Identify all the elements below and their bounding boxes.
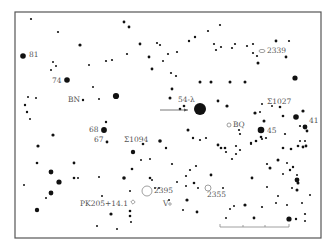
star <box>292 166 294 168</box>
star <box>222 187 224 189</box>
star <box>259 111 261 113</box>
star <box>20 53 26 59</box>
star <box>199 81 202 84</box>
star <box>213 43 215 45</box>
star <box>196 211 199 214</box>
star <box>303 125 308 130</box>
star <box>231 158 233 160</box>
star <box>96 225 98 227</box>
star <box>197 187 199 189</box>
pk205-nebula-icon <box>131 200 135 204</box>
star <box>165 147 167 149</box>
star <box>193 182 196 185</box>
star <box>275 202 277 204</box>
star <box>171 163 173 165</box>
star <box>220 147 223 150</box>
star <box>156 42 158 44</box>
star <box>159 44 161 46</box>
star <box>296 189 299 192</box>
star <box>229 81 232 84</box>
star <box>295 218 297 220</box>
label-68: 68 <box>89 125 99 134</box>
star <box>131 168 134 171</box>
star <box>36 144 39 147</box>
star <box>105 121 107 123</box>
label-74: 74 <box>52 76 62 85</box>
star <box>35 208 39 212</box>
star <box>235 145 237 147</box>
star <box>111 59 113 61</box>
star <box>123 21 126 24</box>
star <box>176 181 178 183</box>
star <box>266 186 268 188</box>
star <box>253 111 256 114</box>
star <box>238 129 240 131</box>
star <box>176 51 178 53</box>
star <box>101 127 107 133</box>
star <box>49 191 54 196</box>
label-pk205: PK205+14.1 <box>80 199 128 208</box>
star <box>234 43 236 45</box>
star <box>261 206 263 208</box>
label-2395: 2395 <box>154 186 173 195</box>
star <box>296 174 298 176</box>
star <box>109 212 112 215</box>
star <box>299 125 301 127</box>
star <box>187 129 190 132</box>
label-2355: 2355 <box>207 190 226 199</box>
star <box>88 64 90 66</box>
star <box>231 47 233 49</box>
star <box>207 30 209 32</box>
2339-galaxy-icon <box>259 49 265 52</box>
star <box>64 77 70 83</box>
star <box>167 53 169 55</box>
star <box>225 151 227 153</box>
star <box>282 115 285 118</box>
label-v: V <box>162 199 169 208</box>
star <box>244 81 247 84</box>
star <box>175 75 177 77</box>
star <box>82 99 84 101</box>
star <box>305 145 308 148</box>
star <box>77 177 79 179</box>
star <box>304 140 306 142</box>
star <box>129 210 132 213</box>
star <box>78 43 81 46</box>
star <box>299 140 301 142</box>
label-54-lambda: 54-λ <box>178 95 195 104</box>
star <box>306 130 309 133</box>
star <box>258 127 265 134</box>
star <box>256 55 258 57</box>
star <box>126 53 128 55</box>
label-67: 67 <box>94 135 104 144</box>
star <box>51 133 54 136</box>
star <box>309 194 311 196</box>
star <box>253 217 256 220</box>
star <box>295 178 300 183</box>
star <box>282 147 285 150</box>
star <box>304 220 306 222</box>
star <box>73 162 76 165</box>
star <box>188 40 190 42</box>
star <box>151 179 153 181</box>
star <box>149 158 151 160</box>
star <box>286 204 288 206</box>
star <box>169 97 172 100</box>
star <box>257 62 260 65</box>
label-45: 45 <box>267 126 277 135</box>
label-81: 81 <box>29 50 39 59</box>
star <box>49 170 54 175</box>
star <box>250 142 252 144</box>
star <box>29 118 31 120</box>
star <box>205 137 207 139</box>
star <box>282 173 284 175</box>
star <box>229 208 231 210</box>
arrow-head-icon <box>184 108 188 111</box>
star <box>225 104 228 107</box>
star <box>261 138 263 140</box>
star <box>304 213 306 215</box>
star <box>57 31 59 33</box>
star <box>301 202 303 204</box>
star <box>26 111 28 113</box>
star <box>233 205 235 207</box>
